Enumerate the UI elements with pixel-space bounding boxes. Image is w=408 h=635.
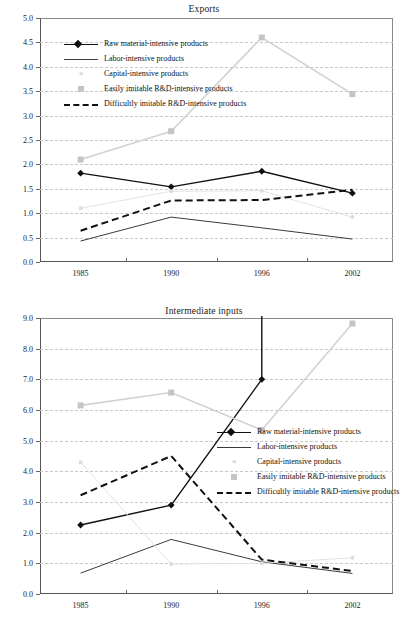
square-marker-icon: [78, 86, 84, 92]
dot-marker-icon: [232, 460, 236, 464]
legend-item: Difficultly imitable R&D-intensive produ…: [215, 484, 399, 499]
data-point-square-icon: [168, 128, 174, 134]
legend-label: Raw material-intensive products: [100, 40, 208, 48]
data-point-square-icon: [349, 91, 355, 97]
series-line: [81, 217, 353, 241]
y-tick-label: 0.5: [0, 233, 33, 242]
data-point-square-icon: [259, 35, 265, 41]
legend-key-square-gray-icon: [215, 470, 253, 483]
data-point-diamond-icon: [77, 170, 84, 177]
legend-key-dashed-black-icon: [62, 97, 100, 110]
data-point-square-icon: [168, 390, 174, 396]
y-tick-label: 2.0: [0, 160, 33, 169]
y-tick-label: 8.0: [0, 344, 33, 353]
data-point-dot-icon: [350, 215, 354, 219]
legend-label: Raw material-intensive products: [253, 428, 361, 436]
y-tick-label: 3.0: [0, 111, 33, 120]
x-tick-label: 2002: [344, 601, 360, 610]
legend-item: Capital-intensive products: [62, 66, 246, 81]
legend-key-line-thin-black-icon: [215, 440, 253, 453]
y-tick-mark: [36, 262, 40, 263]
series-difficultly-imitable-r-d-intensive-products: [81, 190, 353, 231]
y-tick-label: 5.0: [0, 436, 33, 445]
legend-key-line-diamond-black-icon: [215, 425, 253, 438]
legend-key-line-thin-black-icon: [62, 52, 100, 65]
series-easily-imitable-r-d-intensive-products: [78, 321, 356, 433]
data-point-dot-icon: [260, 561, 264, 565]
square-marker-icon: [231, 474, 237, 480]
y-tick-label: 1.0: [0, 559, 33, 568]
legend-label: Capital-intensive products: [100, 70, 188, 78]
series-line: [81, 190, 353, 231]
data-point-diamond-icon: [77, 522, 84, 529]
legend-label: Easily imitable R&D-intensive products: [100, 85, 233, 93]
chart-panel-intermediate-inputs: Intermediate inputs 0.01.02.03.04.05.06.…: [0, 300, 408, 635]
data-point-square-icon: [78, 157, 84, 163]
legend-key-dashed-black-icon: [215, 485, 253, 498]
data-point-dot-icon: [169, 189, 173, 193]
y-tick-label: 2.0: [0, 528, 33, 537]
x-tick-label: 1990: [163, 601, 179, 610]
y-tick-label: 4.0: [0, 62, 33, 71]
series-labor-intensive-products: [81, 539, 353, 573]
y-tick-label: 7.0: [0, 375, 33, 384]
legend-item: Raw material-intensive products: [62, 36, 246, 51]
y-tick-label: 9.0: [0, 314, 33, 323]
diamond-marker-icon: [227, 427, 235, 435]
legend-item: Raw material-intensive products: [215, 424, 399, 439]
series-raw-material-intensive-products: [77, 168, 356, 197]
figure-page: Exports 0.00.51.01.52.02.53.03.54.04.55.…: [0, 0, 408, 635]
series-labor-intensive-products: [81, 217, 353, 241]
legend-label: Easily imitable R&D-intensive products: [253, 473, 386, 481]
y-tick-label: 6.0: [0, 406, 33, 415]
data-point-dot-icon: [79, 206, 83, 210]
series-line: [81, 539, 353, 573]
x-tick-label: 1985: [73, 269, 89, 278]
y-tick-label: 0.0: [0, 258, 33, 267]
y-tick-label: 3.5: [0, 87, 33, 96]
x-tick-label: 2002: [344, 269, 360, 278]
legend-label: Difficultly imitable R&D-intensive produ…: [100, 100, 246, 108]
y-tick-label: 3.0: [0, 498, 33, 507]
legend-key-dot-light-gray-icon: [62, 67, 100, 80]
series-line: [81, 324, 353, 430]
x-tick-label: 1985: [73, 601, 89, 610]
legend-label: Labor-intensive products: [253, 443, 337, 451]
x-tick-label: 1996: [254, 269, 270, 278]
legend-item: Easily imitable R&D-intensive products: [215, 469, 399, 484]
legend-label: Capital-intensive products: [253, 458, 341, 466]
legend-exports: Raw material-intensive productsLabor-int…: [62, 36, 246, 111]
legend-key-dot-light-gray-icon: [215, 455, 253, 468]
diamond-marker-icon: [74, 39, 82, 47]
y-tick-mark: [36, 594, 40, 595]
chart-title-exports: Exports: [0, 4, 408, 14]
y-tick-label: 4.0: [0, 467, 33, 476]
legend-key-square-gray-icon: [62, 82, 100, 95]
y-tick-label: 1.0: [0, 209, 33, 218]
legend-key-line-diamond-black-icon: [62, 37, 100, 50]
chart-title-intermediate-inputs: Intermediate inputs: [0, 306, 408, 316]
data-point-dot-icon: [260, 189, 264, 193]
y-tick-label: 2.5: [0, 136, 33, 145]
legend-item: Capital-intensive products: [215, 454, 399, 469]
data-point-diamond-icon: [349, 190, 356, 197]
data-point-diamond-icon: [258, 168, 265, 175]
legend-label: Difficultly imitable R&D-intensive produ…: [253, 488, 399, 496]
legend-item: Easily imitable R&D-intensive products: [62, 81, 246, 96]
data-point-dot-icon: [169, 562, 173, 566]
chart-panel-exports: Exports 0.00.51.01.52.02.53.03.54.04.55.…: [0, 0, 408, 310]
legend-label: Labor-intensive products: [100, 55, 184, 63]
x-tick-label: 1996: [254, 601, 270, 610]
data-point-square-icon: [78, 402, 84, 408]
data-point-dot-icon: [350, 556, 354, 560]
dot-marker-icon: [79, 72, 83, 76]
data-point-dot-icon: [79, 460, 83, 464]
x-tick-label: 1990: [163, 269, 179, 278]
legend-item: Difficultly imitable R&D-intensive produ…: [62, 96, 246, 111]
legend-intermediate-inputs: Raw material-intensive productsLabor-int…: [215, 424, 399, 499]
legend-item: Labor-intensive products: [215, 439, 399, 454]
series-line: [81, 171, 353, 193]
y-tick-label: 1.5: [0, 184, 33, 193]
data-point-square-icon: [349, 321, 355, 327]
y-tick-label: 5.0: [0, 14, 33, 23]
